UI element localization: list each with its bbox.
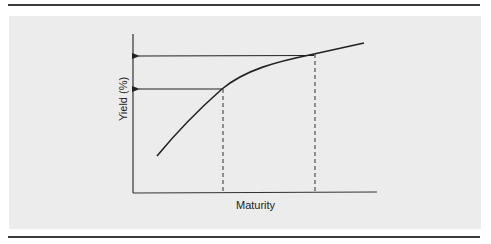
y-axis-label: Yield (%) xyxy=(117,69,129,129)
arrow-long-yield xyxy=(139,56,314,57)
x-axis-label: Maturity xyxy=(236,199,275,211)
bottom-rule xyxy=(8,236,480,238)
yield-curve-line xyxy=(157,43,364,156)
x-axis xyxy=(133,192,377,193)
